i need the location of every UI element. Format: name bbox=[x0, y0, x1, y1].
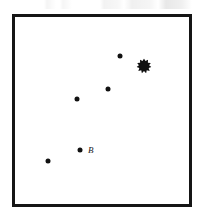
star-dot bbox=[78, 148, 83, 153]
star-dot bbox=[46, 159, 51, 164]
star-cluster-icon bbox=[137, 59, 152, 74]
star-dot bbox=[75, 97, 80, 102]
star-dot bbox=[106, 87, 111, 92]
scan-artifact bbox=[0, 0, 204, 9]
chart-plot-area: B bbox=[15, 17, 189, 204]
star-dot bbox=[118, 54, 123, 59]
figure-root: B bbox=[0, 0, 204, 220]
chart-frame: B bbox=[12, 14, 192, 207]
star-label-b: B bbox=[88, 146, 94, 155]
